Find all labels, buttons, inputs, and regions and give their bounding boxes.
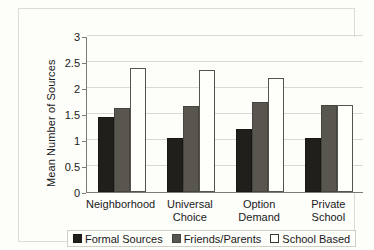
bar-school [199,70,215,192]
y-tick-mark [82,115,86,116]
y-tick-label: 2 [34,84,80,95]
x-tick-label: Private School [294,198,363,224]
x-tick-label-line: Option [225,198,294,211]
y-tick-mark [82,89,86,90]
bar-friends [183,106,199,192]
x-tick-label-line: Choice [155,211,224,224]
legend-swatch-icon [172,234,181,243]
bar-school [337,105,353,192]
bar-friends [321,105,337,192]
y-tick-mark [82,193,86,194]
y-tick-mark [82,37,86,38]
legend-swatch-icon [270,234,279,243]
bar-chart: 00.511.522.53 Mean Number of Sources Nei… [0,0,374,250]
bar-friends [114,108,130,192]
y-tick-mark [82,167,86,168]
bar-formal [167,138,183,192]
gridline [87,87,363,88]
legend-label: Formal Sources [85,233,163,245]
bar-friends [252,102,268,192]
y-tick-label: 0 [34,188,80,199]
y-axis-title: Mean Number of Sources [45,59,57,187]
x-tick-label-line: Neighborhood [86,198,155,211]
x-tick-label: Neighborhood [86,198,155,211]
legend-swatch-icon [73,234,82,243]
y-tick-mark [82,63,86,64]
x-tick-label-line: Universal [155,198,224,211]
y-tick-label: 1 [34,136,80,147]
legend-item: Friends/Parents [172,233,262,245]
bar-formal [236,129,252,192]
y-tick-mark [82,141,86,142]
gridline [87,35,363,36]
y-tick-label: 0.5 [34,162,80,173]
chart-legend: Formal SourcesFriends/ParentsSchool Base… [67,230,356,247]
gridline [87,61,363,62]
legend-label: Friends/Parents [184,233,262,245]
legend-item: Formal Sources [73,233,163,245]
chart-frame: 00.511.522.53 Mean Number of Sources Nei… [18,8,355,242]
x-tick-label-line: Demand [225,211,294,224]
legend-item: School Based [270,233,350,245]
bar-school [130,68,146,192]
x-tick-label-line: Private School [294,198,363,224]
bar-formal [98,117,114,192]
legend-label: School Based [282,233,350,245]
x-tick-label: UniversalChoice [155,198,224,224]
y-tick-label: 3 [34,32,80,43]
y-tick-label: 2.5 [34,58,80,69]
x-tick-label: OptionDemand [225,198,294,224]
plot-area [86,37,363,193]
bar-school [268,78,284,192]
y-tick-label: 1.5 [34,110,80,121]
bar-formal [305,138,321,192]
